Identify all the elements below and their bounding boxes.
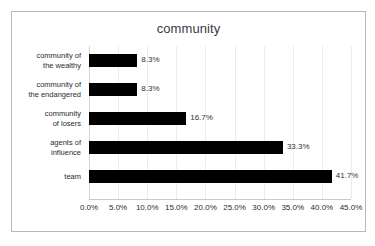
x-tick-label: 0.0%: [80, 203, 98, 212]
y-axis-label-line: team: [64, 172, 81, 182]
cropped-top-remnant: [0, 0, 375, 11]
bar-value-label: 16.7%: [190, 111, 213, 124]
y-axis-label-line: community: [45, 109, 81, 119]
cropped-text-ghost: [112, 0, 116, 3]
bar-value-label: 8.3%: [141, 53, 159, 66]
x-tick-label: 30.0%: [252, 203, 275, 212]
bar-row: 33.3%: [89, 133, 351, 162]
bar[interactable]: [89, 83, 137, 96]
x-tick-label: 45.0%: [340, 203, 363, 212]
y-axis-label: community ofthe endangered: [9, 75, 81, 104]
x-tick-label: 40.0%: [311, 203, 334, 212]
chart-title: community: [12, 21, 365, 36]
x-tick-label: 35.0%: [281, 203, 304, 212]
bar[interactable]: [89, 54, 137, 67]
bar-value-label: 41.7%: [336, 169, 359, 182]
bar-row: 41.7%: [89, 162, 351, 191]
y-axis-label-line: of losers: [53, 119, 81, 129]
x-tick-label: 5.0%: [109, 203, 127, 212]
bar[interactable]: [89, 112, 186, 125]
bar-value-label: 8.3%: [141, 82, 159, 95]
y-axis-category-labels: community ofthe wealthycommunity ofthe e…: [12, 46, 86, 199]
y-axis-label-line: agents of: [50, 138, 81, 148]
chart-container: community community ofthe wealthycommuni…: [11, 11, 366, 232]
x-tick-label: 15.0%: [165, 203, 188, 212]
x-axis-tick-labels: 0.0%5.0%10.0%15.0%20.0%25.0%30.0%35.0%40…: [89, 203, 351, 217]
x-tick-label: 10.0%: [136, 203, 159, 212]
plot-area: 8.3%8.3%16.7%33.3%41.7%: [89, 46, 351, 199]
y-axis-label-line: influence: [51, 148, 81, 158]
y-axis-label-line: the wealthy: [43, 61, 81, 71]
y-axis-label-line: the endangered: [28, 90, 81, 100]
bar-row: 8.3%: [89, 75, 351, 104]
y-axis-label: agents ofinfluence: [9, 133, 81, 162]
bar[interactable]: [89, 141, 283, 154]
y-axis-label: community ofthe wealthy: [9, 46, 81, 75]
bar-value-label: 33.3%: [287, 140, 310, 153]
x-tick-label: 25.0%: [223, 203, 246, 212]
bar-row: 16.7%: [89, 104, 351, 133]
bar[interactable]: [89, 170, 332, 183]
bar-row: 8.3%: [89, 46, 351, 75]
y-axis-label: communityof losers: [9, 104, 81, 133]
y-axis-label: team: [9, 162, 81, 191]
x-tick-label: 20.0%: [194, 203, 217, 212]
bar-series: 8.3%8.3%16.7%33.3%41.7%: [89, 46, 351, 199]
y-axis-label-line: community of: [36, 80, 81, 90]
x-axis-line: [89, 199, 351, 200]
y-axis-label-line: community of: [36, 51, 81, 61]
